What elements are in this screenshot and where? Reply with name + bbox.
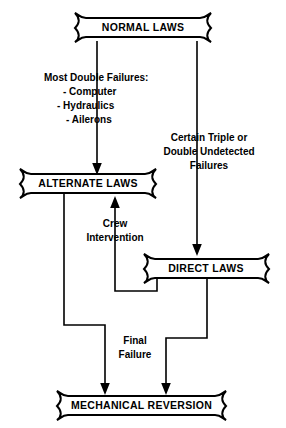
node-label: MECHANICAL REVERSION: [71, 399, 212, 411]
edge-direct-to-mechanical: [161, 277, 207, 395]
node-label: DIRECT LAWS: [168, 262, 244, 274]
node-label: NORMAL LAWS: [102, 21, 184, 33]
label-certain-triple-failures: Certain Triple or Double Undetected Fail…: [163, 132, 254, 171]
certain-triple-line-1: Certain Triple or: [171, 132, 248, 143]
edge-line: [166, 277, 207, 386]
final-line-2: Failure: [119, 349, 152, 360]
arrow-head-icon: [161, 383, 171, 395]
label-final-failure: Final Failure: [119, 335, 152, 360]
failure-item-hydraulics: - Hydraulics: [57, 100, 115, 111]
certain-triple-line-2: Double Undetected: [163, 146, 254, 157]
arrow-head-icon: [100, 383, 110, 395]
failure-item-ailerons: - Ailerons: [66, 114, 112, 125]
node-label: ALTERNATE LAWS: [38, 177, 137, 189]
crew-line-1: Crew: [103, 218, 128, 229]
arrow-head-icon: [110, 196, 120, 208]
node-normal-laws[interactable]: NORMAL LAWS: [75, 13, 211, 42]
node-mechanical-reversion[interactable]: MECHANICAL REVERSION: [57, 391, 226, 420]
flowchart-canvas: NORMAL LAWS ALTERNATE LAWS DIRECT LAWS M…: [0, 0, 286, 428]
certain-triple-line-3: Failures: [190, 160, 229, 171]
failures-heading: Most Double Failures:: [44, 72, 148, 83]
flowchart-diagram: NORMAL LAWS ALTERNATE LAWS DIRECT LAWS M…: [0, 0, 286, 428]
node-alternate-laws[interactable]: ALTERNATE LAWS: [20, 169, 156, 198]
final-line-1: Final: [123, 335, 147, 346]
arrow-head-icon: [192, 244, 202, 256]
crew-line-2: Intervention: [86, 232, 143, 243]
edge-line: [64, 192, 105, 386]
node-direct-laws[interactable]: DIRECT LAWS: [144, 254, 269, 283]
failure-item-computer: - Computer: [63, 86, 116, 97]
